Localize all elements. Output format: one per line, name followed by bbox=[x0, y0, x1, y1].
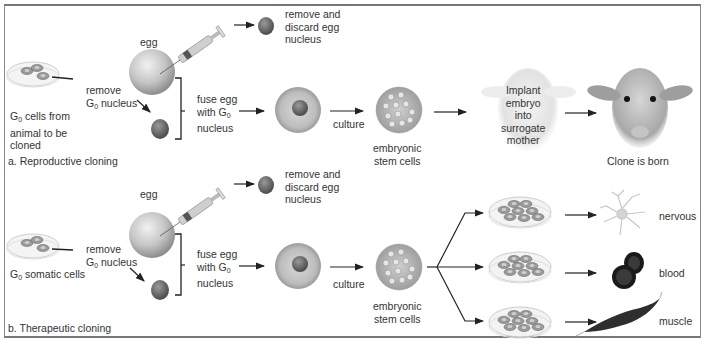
tissue-blood-label: blood bbox=[659, 267, 685, 280]
tissue-muscle-label: muscle bbox=[659, 315, 692, 328]
source-cells-label-b: G0 somatic cells bbox=[10, 268, 85, 285]
tissue-nervous-label: nervous bbox=[659, 210, 696, 223]
discard-label-a: remove anddiscard eggnucleus bbox=[285, 8, 340, 46]
diagram-artwork bbox=[0, 0, 707, 344]
remove-nucleus-label-b: remove G0 nucleus bbox=[86, 243, 137, 272]
stem-cells-label-b: embryonicstem cells bbox=[373, 300, 421, 325]
muscle-cell-icon bbox=[576, 292, 662, 336]
culture-label-a: culture bbox=[333, 118, 365, 131]
implant-label: Implantembryointosurrogatemother bbox=[501, 84, 545, 147]
blood-cells-icon bbox=[612, 252, 644, 289]
panel-a-caption: a. Reproductive cloning bbox=[8, 155, 118, 167]
discard-label-b: remove anddiscard eggnucleus bbox=[285, 168, 340, 206]
stem-cells-label-a: embryonicstem cells bbox=[373, 142, 421, 167]
culture-label-b: culture bbox=[333, 278, 365, 291]
panel-b-caption: b. Therapeutic cloning bbox=[8, 322, 111, 334]
clone-born-label: Clone is born bbox=[607, 155, 669, 168]
sheep-clone bbox=[586, 68, 694, 148]
fuse-label-b: fuse egg with G0 nucleus bbox=[197, 248, 237, 290]
egg-label-a: egg bbox=[140, 36, 158, 49]
egg-label-b: egg bbox=[140, 188, 158, 201]
source-cells-label-a: G0 cells from animal to becloned bbox=[10, 110, 70, 152]
remove-nucleus-label-a: remove G0 nucleus bbox=[86, 84, 137, 113]
fuse-label-a: fuse egg with G0 nucleus bbox=[197, 93, 237, 135]
neuron-icon bbox=[600, 190, 645, 235]
